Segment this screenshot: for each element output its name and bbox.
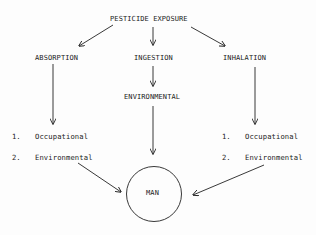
list-number: 1. (12, 132, 21, 141)
absorption-source-environmental: Environmental (35, 153, 93, 162)
list-number: 2. (12, 153, 21, 162)
inhalation-source-occupational: Occupational (245, 132, 298, 141)
absorption-source-occupational: Occupational (35, 132, 88, 141)
target-man: MAN (146, 189, 159, 198)
pesticide-exposure-diagram: PESTICIDE EXPOSURE ABSORPTION INGESTION … (0, 0, 316, 235)
connector-arrows (0, 0, 316, 235)
inhalation-source-environmental: Environmental (245, 153, 303, 162)
arrow-absorption-sources-to-man (78, 163, 121, 192)
root-node-pesticide-exposure: PESTICIDE EXPOSURE (110, 15, 188, 24)
list-number: 1. (222, 132, 231, 141)
arrow-exposure-to-inhalation (191, 27, 225, 46)
arrow-inhalation-sources-to-man (193, 165, 264, 195)
route-absorption: ABSORPTION (35, 54, 78, 63)
route-inhalation: INHALATION (223, 54, 266, 63)
list-number: 2. (222, 153, 231, 162)
route-ingestion: INGESTION (134, 54, 173, 63)
arrow-exposure-to-absorption (79, 25, 113, 46)
ingestion-source-environmental: ENVIRONMENTAL (124, 93, 180, 102)
